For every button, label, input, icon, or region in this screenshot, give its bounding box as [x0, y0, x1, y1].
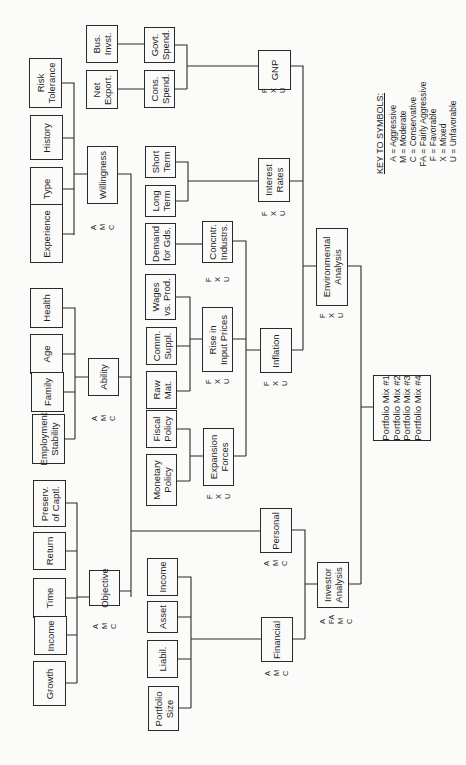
node-label: Net Export. — [92, 74, 113, 104]
node-label: Concntr. Industrs. — [207, 224, 228, 260]
node-label: Bus. Invst. — [92, 33, 113, 56]
node-ability: Ability — [88, 358, 119, 396]
node-label: Demand for Gds. — [150, 226, 171, 262]
node-age: Age — [30, 334, 63, 374]
node-label: Age — [41, 346, 52, 363]
node-monetary-policy: Monetary Policy — [146, 454, 177, 506]
node-label: Govt. Spend. — [149, 30, 170, 60]
node-label: Inflation — [271, 334, 282, 367]
node-short-term: Short Term — [145, 146, 176, 178]
node-return: Return — [33, 532, 66, 570]
node-label: Portfolio Mix #1 Portfolio Mix #2 Portfo… — [381, 375, 423, 440]
rating-financial: A M C — [263, 676, 269, 703]
node-expansion-forces: Expansion Forces — [203, 428, 234, 486]
node-net-export: Net Export. — [86, 70, 118, 109]
node-label: Asset — [157, 605, 168, 629]
key-row: FA = Fairly Aggressive — [418, 44, 428, 174]
node-label: Willingness — [97, 151, 108, 199]
rating-interest-rates: F X U — [260, 216, 265, 243]
node-gnp: GNP — [258, 50, 291, 90]
node-concntr-industrs: Concntr. Industrs. — [202, 221, 233, 263]
node-label: Objective — [99, 568, 110, 608]
node-inflation: Inflation — [260, 328, 292, 373]
node-income-objective: Income — [34, 616, 67, 655]
rating-personal: A M C — [262, 566, 268, 593]
node-label: Comm. Suppl. — [151, 331, 172, 362]
node-label: Time — [44, 588, 55, 609]
node-growth: Growth — [33, 661, 66, 706]
node-label: Personal — [271, 512, 282, 550]
node-label: Income — [45, 620, 56, 651]
key-title: KEY TO SYMBOLS: — [375, 44, 385, 174]
rating-investor-analysis: A FA M C — [318, 624, 327, 660]
node-label: Expansion Forces — [208, 435, 229, 479]
node-income-financial: Income — [147, 558, 178, 596]
node-time: Time — [33, 578, 66, 618]
node-label: GNP — [269, 60, 280, 81]
node-interest-rates: Interest Rates — [258, 158, 290, 202]
node-label: Financial — [272, 620, 283, 658]
node-comm-suppl: Comm. Suppl. — [146, 327, 177, 365]
node-asset: Asset — [147, 601, 178, 633]
key-row: U = Unfavorable — [448, 44, 458, 174]
node-label: Employment Stability — [38, 413, 59, 466]
key-row: F = Favorable — [428, 44, 438, 174]
node-label: History — [41, 123, 52, 153]
node-liabil: Liabil. — [147, 640, 178, 678]
node-label: Preserv. of Captl. — [39, 486, 60, 521]
node-family: Family — [31, 372, 64, 412]
node-label: Long Term — [150, 190, 171, 211]
node-preserv-captl: Preserv. of Captl. — [33, 480, 66, 527]
rating-ability: A M C — [90, 421, 96, 448]
node-financial: Financial — [261, 617, 293, 662]
key-to-symbols: KEY TO SYMBOLS: A = Aggressive M = Moder… — [375, 44, 465, 174]
node-label: Short Term — [150, 151, 171, 174]
node-label: Raw Mat. — [151, 380, 172, 399]
node-label: Ability — [98, 364, 109, 389]
node-fiscal-policy: Fiscal Policy — [146, 410, 177, 448]
node-label: Type — [41, 179, 52, 200]
node-rise-in-input-prices: Rise in Input Prices — [202, 307, 233, 372]
node-willingness: Willingness — [87, 146, 118, 204]
node-label: Health — [41, 294, 52, 321]
node-label: Investor Analysis — [323, 567, 344, 602]
rating-environmental-analysis: F X U — [318, 318, 323, 345]
rating-objective: A M C — [91, 629, 97, 656]
rating-expansion-forces: F X U — [205, 499, 210, 526]
rating-rise-in-input-prices: F X U — [204, 384, 209, 411]
node-label: Experience — [41, 210, 52, 258]
node-label: Cons. Spend. — [149, 74, 170, 104]
node-label: Monetary Policy — [151, 460, 172, 500]
node-personal: Personal — [260, 508, 292, 553]
node-health: Health — [30, 288, 63, 328]
node-label: Portfolio Size — [153, 691, 174, 726]
node-label: Fiscal Policy — [151, 416, 172, 441]
key-row: C = Conservative — [408, 44, 418, 174]
node-experience: Experience — [30, 204, 63, 263]
node-investor-analysis: Investor Analysis — [317, 562, 349, 608]
node-label: Income — [157, 561, 168, 592]
rating-gnp: F X U — [260, 93, 265, 120]
node-label: Risk Tolerance — [35, 62, 56, 103]
node-bus-invst: Bus. Invst. — [86, 25, 118, 63]
node-label: Wages vs. Prod. — [150, 278, 171, 316]
node-label: Family — [42, 378, 53, 406]
node-label: Interest Rates — [264, 164, 285, 196]
node-label: Rise in Input Prices — [207, 314, 228, 364]
node-cons-spend: Cons. Spend. — [144, 70, 175, 108]
node-raw-mat: Raw Mat. — [146, 371, 177, 409]
node-long-term: Long Term — [145, 185, 176, 217]
node-portfolio-mix: Portfolio Mix #1 Portfolio Mix #2 Portfo… — [373, 375, 431, 441]
node-employment-stability: Employment Stability — [32, 414, 65, 464]
node-objective: Objective — [89, 570, 120, 606]
node-portfolio-size: Portfolio Size — [148, 686, 179, 731]
node-history: History — [30, 115, 63, 160]
key-row: M = Moderate — [398, 44, 408, 174]
node-demand-for-goods: Demand for Gds. — [145, 223, 176, 265]
node-risk-tolerance: Risk Tolerance — [29, 58, 62, 108]
node-label: Return — [44, 537, 55, 566]
rating-inflation: F X U — [262, 386, 267, 413]
key-row: A = Aggressive — [388, 44, 398, 174]
node-govt-spend: Govt. Spend. — [144, 27, 175, 63]
node-label: Growth — [44, 668, 55, 699]
